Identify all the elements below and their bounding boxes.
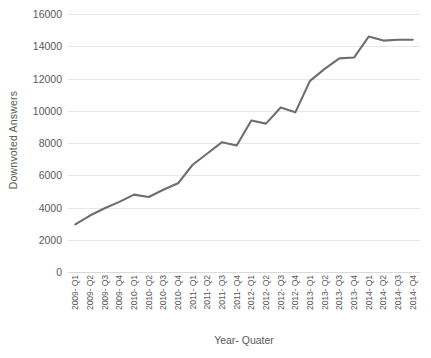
- x-tick-label-2014-q4: 2014- Q4: [406, 274, 420, 330]
- x-tick-label-2013-q3: 2013- Q3: [332, 274, 346, 330]
- x-tick-label-2012-q1: 2012- Q1: [244, 274, 258, 330]
- series-polyline: [75, 37, 412, 225]
- x-axis-tick-labels: 2009- Q12009- Q22009- Q32009- Q42010- Q1…: [68, 274, 420, 330]
- line-chart: Downvoted Answers 0200040006000800010000…: [0, 0, 431, 358]
- y-tick-label-14000: 14000: [33, 40, 62, 52]
- y-axis-title: Downvoted Answers: [0, 0, 26, 280]
- x-tick-label-2011-q3: 2011- Q3: [215, 274, 229, 330]
- x-axis-title: Year- Quater: [68, 331, 420, 349]
- x-tick-label-2014-q1: 2014- Q1: [362, 274, 376, 330]
- y-tick-label-12000: 12000: [33, 73, 62, 85]
- x-tick-label-2012-q2: 2012- Q2: [259, 274, 273, 330]
- x-tick-label-2009-q2: 2009- Q2: [83, 274, 97, 330]
- x-tick-label-2014-q2: 2014- Q2: [376, 274, 390, 330]
- x-tick-label-2014-q3: 2014- Q3: [391, 274, 405, 330]
- y-tick-label-6000: 6000: [39, 169, 62, 181]
- x-tick-label-2010-q2: 2010- Q2: [142, 274, 156, 330]
- x-tick-label-2011-q1: 2011- Q1: [186, 274, 200, 330]
- x-tick-label-2011-q4: 2011- Q4: [230, 274, 244, 330]
- x-tick-label-2011-q2: 2011- Q2: [200, 274, 214, 330]
- series-line-downvoted-answers: [68, 14, 420, 272]
- y-tick-label-4000: 4000: [39, 202, 62, 214]
- x-tick-label-2010-q3: 2010- Q3: [156, 274, 170, 330]
- x-tick-label-2013-q1: 2013- Q1: [303, 274, 317, 330]
- x-tick-label-2012-q4: 2012- Q4: [288, 274, 302, 330]
- plot-area: [68, 14, 420, 272]
- x-tick-label-2009-q3: 2009- Q3: [98, 274, 112, 330]
- y-tick-label-10000: 10000: [33, 105, 62, 117]
- x-tick-label-2013-q2: 2013- Q2: [318, 274, 332, 330]
- y-tick-label-2000: 2000: [39, 234, 62, 246]
- x-tick-label-2009-q4: 2009- Q4: [112, 274, 126, 330]
- y-tick-label-0: 0: [56, 266, 62, 278]
- y-tick-label-8000: 8000: [39, 137, 62, 149]
- x-tick-label-2012-q3: 2012- Q3: [274, 274, 288, 330]
- y-axis-title-label: Downvoted Answers: [7, 91, 19, 190]
- gridline-0: [68, 272, 420, 273]
- x-tick-label-2010-q4: 2010- Q4: [171, 274, 185, 330]
- y-axis-tick-labels: 0200040006000800010000120001400016000: [26, 14, 66, 278]
- x-tick-label-2010-q1: 2010- Q1: [127, 274, 141, 330]
- x-tick-label-2009-q1: 2009- Q1: [68, 274, 82, 330]
- x-tick-label-2013-q4: 2013- Q4: [347, 274, 361, 330]
- y-tick-label-16000: 16000: [33, 8, 62, 20]
